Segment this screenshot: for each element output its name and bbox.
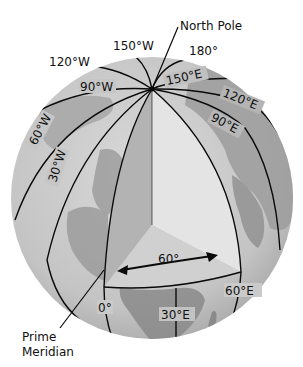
angle-label: 60° xyxy=(158,252,179,266)
label-30e: 30°E xyxy=(161,308,190,322)
label-180: 180° xyxy=(189,44,218,58)
label-60e: 60°E xyxy=(225,284,254,298)
label-150w: 150°W xyxy=(113,39,154,53)
north-pole-label: North Pole xyxy=(180,19,242,33)
globe-diagram: North Pole Prime Meridian 60° 150°W 180°… xyxy=(0,0,303,367)
label-120w: 120°W xyxy=(49,55,90,69)
label-0: 0° xyxy=(98,301,112,315)
label-90w: 90°W xyxy=(80,80,113,94)
prime-meridian-label-line2: Meridian xyxy=(22,345,74,359)
prime-meridian-label-line1: Prime xyxy=(22,330,56,344)
